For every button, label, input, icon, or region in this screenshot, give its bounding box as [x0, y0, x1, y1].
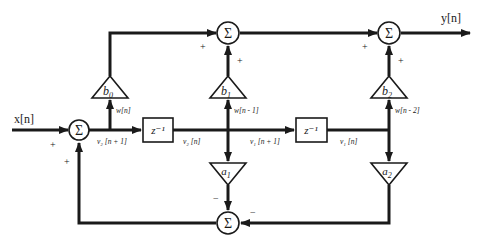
signal-v1-n: v₁ [n]: [340, 137, 357, 146]
signal-w-n-1: w[n - 1]: [234, 106, 259, 115]
signal-w-n: w[n]: [116, 106, 131, 115]
svg-text:z⁻¹: z⁻¹: [150, 124, 164, 136]
feedback-wire: [79, 143, 216, 223]
output-label: y[n]: [441, 11, 461, 25]
sum-node-feedback: Σ: [217, 212, 239, 234]
multiplier-b1: b1: [210, 76, 246, 100]
multiplier-a1: a1: [210, 163, 246, 185]
sign-sum3-bottom-plus: +: [398, 55, 404, 66]
svg-text:Σ: Σ: [75, 123, 83, 138]
sign-a1-minus: −: [213, 193, 219, 204]
sum-node-output: Σ: [378, 22, 400, 44]
signal-w-n-2: w[n - 2]: [395, 106, 420, 115]
svg-text:Σ: Σ: [385, 26, 393, 41]
sign-a2-minus: −: [250, 207, 256, 218]
svg-text:z⁻¹: z⁻¹: [303, 124, 317, 136]
filter-block-diagram: Σ Σ Σ Σ z⁻¹ z⁻¹ b0 b1 b2 a1 a2: [0, 0, 482, 241]
delay-block-2: z⁻¹: [296, 118, 327, 142]
multiplier-b0: b0: [92, 76, 128, 100]
sign-sum3-left-plus: +: [362, 41, 368, 52]
delay-block-1: z⁻¹: [143, 118, 173, 142]
signal-v2-n: v₂ [n]: [183, 137, 200, 146]
sum-node-middle: Σ: [217, 22, 239, 44]
svg-text:Σ: Σ: [224, 216, 232, 231]
wire-b0-to-sum2: [110, 33, 216, 76]
svg-text:Σ: Σ: [224, 26, 232, 41]
multiplier-b2: b2: [371, 76, 407, 100]
sign-input-plus: +: [50, 139, 56, 150]
sign-feedback-plus: +: [64, 156, 70, 167]
sign-sum2-left-plus: +: [200, 41, 206, 52]
signal-v1-n-plus-1: v₁ [n + 1]: [250, 137, 280, 146]
sum-node-input: Σ: [69, 120, 89, 140]
multiplier-a2: a2: [371, 163, 407, 185]
input-label: x[n]: [14, 112, 34, 126]
wire-a2-to-sum4: [241, 185, 389, 223]
signal-v2-n-plus-1: v₂ [n + 1]: [97, 137, 127, 146]
sign-sum2-bottom-plus: +: [237, 55, 243, 66]
